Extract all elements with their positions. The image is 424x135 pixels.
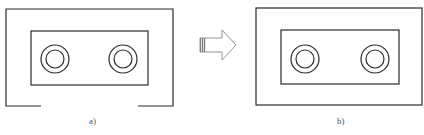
panel-b-ring-right: [361, 45, 389, 73]
panel-a-inner-rect: [31, 31, 148, 85]
panel-b-ring-left: [291, 45, 319, 73]
panel-a-ring-left: [41, 45, 69, 73]
panel-b: [256, 8, 422, 105]
panel-a: [6, 9, 173, 106]
right-arrow-icon: [200, 30, 236, 60]
panel-a-ring-right: [109, 45, 137, 73]
panel-b-label: b): [337, 116, 345, 126]
panel-a-label: a): [89, 116, 96, 126]
figure-caption: [160, 128, 260, 135]
transformation-diagram: [0, 0, 424, 135]
panel-b-inner-rect: [281, 30, 399, 84]
